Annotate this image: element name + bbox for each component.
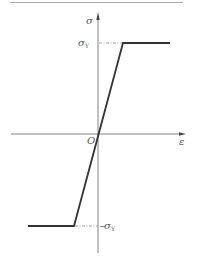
y-axis-label: σ — [86, 15, 94, 26]
origin-label: O — [87, 135, 95, 146]
stress-strain-curve — [28, 43, 170, 226]
svg-text:Y: Y — [84, 42, 90, 49]
yield-bottom-label: − σ Y — [99, 220, 116, 232]
x-axis-label: ε — [179, 136, 184, 147]
svg-text:Y: Y — [110, 225, 116, 232]
yield-top-label: σ Y — [78, 37, 90, 49]
stress-strain-diagram: σ σ Y O ε − σ Y — [0, 0, 199, 263]
y-axis-arrow-icon — [96, 12, 99, 20]
